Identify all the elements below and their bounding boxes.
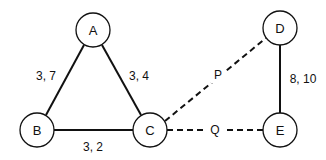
network-diagram: 3, 7 3, 4 3, 2 P Q 8, 10 A B C D E: [0, 0, 326, 160]
node-a: A: [76, 13, 110, 47]
edge-label-b-c: 3, 2: [83, 140, 103, 154]
node-a-label: A: [89, 23, 98, 38]
edge-label-d-e: 8, 10: [290, 72, 317, 86]
edge-label-c-d: P: [214, 68, 222, 82]
edge-label-c-e: Q: [210, 123, 219, 137]
node-e-label: E: [276, 123, 285, 138]
edge-label-a-c: 3, 4: [129, 69, 149, 83]
node-c-label: C: [145, 123, 154, 138]
node-d-label: D: [275, 21, 284, 36]
node-b: B: [20, 113, 54, 147]
node-e: E: [263, 113, 297, 147]
node-c: C: [133, 113, 167, 147]
node-b-label: B: [33, 123, 42, 138]
edge-label-a-b: 3, 7: [36, 69, 56, 83]
node-d: D: [263, 11, 297, 45]
